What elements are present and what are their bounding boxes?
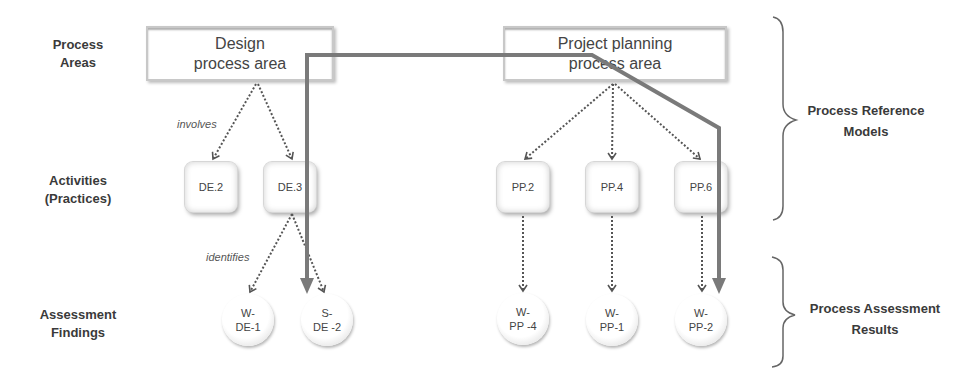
arrow-design-to-de2 [213,84,256,159]
thick-trace-path [307,55,719,278]
brace-assessment-results [772,257,795,367]
trace-arrowhead-pp [712,278,726,294]
arrow-pp-to-pp6 [615,84,700,159]
dotted-arrow-group [213,84,702,292]
diagram-connectors [0,0,975,385]
arrow-pp-to-pp4 [612,84,613,159]
arrow-de3-to-wde1 [250,214,292,292]
trace-arrowhead-de [300,278,314,294]
brace-reference-models [773,17,796,220]
arrow-design-to-de3 [258,84,292,159]
arrow-pp-to-pp2 [525,84,613,159]
